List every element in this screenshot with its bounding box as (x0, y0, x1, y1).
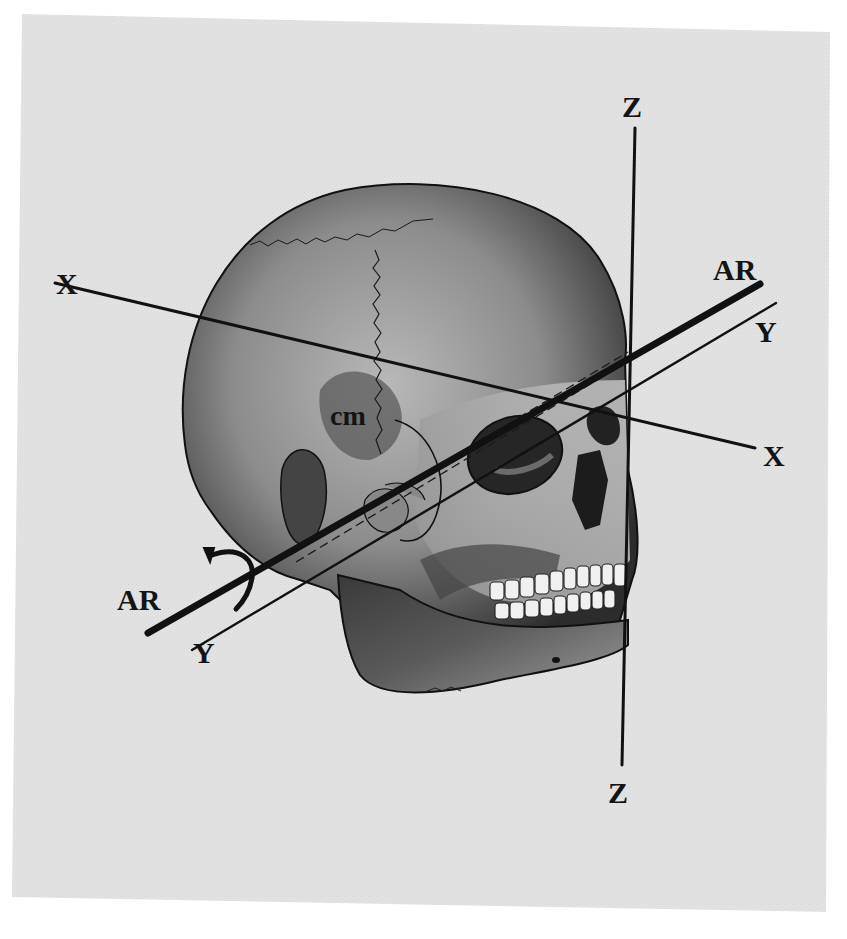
mental-foramen (552, 657, 560, 663)
ar-axis-label-left: AR (117, 583, 161, 616)
y-axis-label-right: Y (755, 315, 777, 348)
x-axis-label-right: X (763, 439, 785, 472)
y-axis-label-left: Y (193, 636, 215, 669)
x-axis-label-left: X (56, 267, 78, 300)
ar-axis-label-right: AR (713, 253, 757, 286)
center-of-mass-label: cm (330, 400, 366, 431)
z-axis-label-bottom: Z (608, 776, 628, 809)
z-axis-label-top: Z (622, 90, 642, 123)
skull-axes-figure: Z Z X X AR AR Y Y cm (0, 0, 847, 939)
